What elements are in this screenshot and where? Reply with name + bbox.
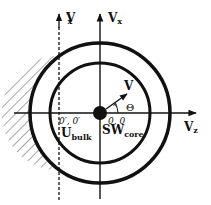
velocity-space-diagram: V′x Vx Vz V Θ 0′, 0′ 0, 0 Ubulk SWcore (0, 0, 211, 205)
theta-label: Θ (126, 102, 134, 113)
vz-label: Vz (183, 120, 198, 135)
origin-prime-label: 0′, 0′ (59, 116, 80, 126)
sw-core-dot (93, 106, 107, 120)
vx-prime-label: V′x (65, 10, 76, 26)
vx-label: Vx (107, 11, 122, 26)
u-bulk-label: Ubulk (61, 126, 92, 142)
velocity-label: V (123, 79, 134, 93)
sw-core-label: SWcore (102, 123, 144, 139)
